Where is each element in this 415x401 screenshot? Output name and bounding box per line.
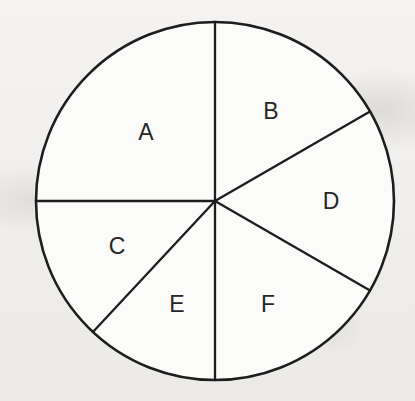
pie-sector-a xyxy=(36,22,215,201)
sector-label-b: B xyxy=(263,98,278,124)
pie-chart-figure: ABDFEC xyxy=(0,0,415,401)
sector-label-e: E xyxy=(169,291,184,317)
sector-label-c: C xyxy=(109,233,126,259)
sector-label-f: F xyxy=(261,291,275,317)
pie-chart-svg: ABDFEC xyxy=(0,0,415,401)
sector-label-d: D xyxy=(323,188,340,214)
sector-label-a: A xyxy=(138,119,154,145)
